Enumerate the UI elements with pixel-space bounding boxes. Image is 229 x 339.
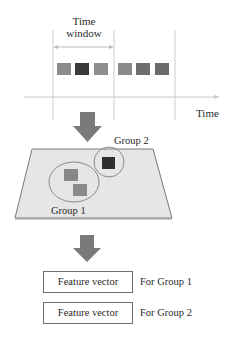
feature-vector-box-2: Feature vector <box>43 302 133 324</box>
time-window-span-arrow <box>53 45 114 49</box>
group1-square-1 <box>64 169 78 181</box>
for-group1-label: For Group 1 <box>140 276 192 288</box>
time-window-label-line1: Time <box>64 15 104 27</box>
event-square-2 <box>75 63 89 75</box>
feature-vector-box-1: Feature vector <box>43 271 133 293</box>
group1-label: Group 1 <box>51 205 86 217</box>
event-square-1 <box>57 63 71 75</box>
event-square-3 <box>94 63 108 75</box>
event-square-6 <box>155 63 169 75</box>
down-arrow-icon <box>73 235 101 262</box>
group1-square-2 <box>73 184 87 196</box>
group2-label: Group 2 <box>114 135 149 147</box>
event-square-5 <box>136 63 150 75</box>
time-window-label: Time window <box>64 15 104 39</box>
time-axis-label: Time <box>196 107 219 119</box>
group2-square <box>102 157 115 169</box>
down-arrow-icon <box>73 112 102 142</box>
event-square-4 <box>118 63 132 75</box>
for-group2-label: For Group 2 <box>140 307 192 319</box>
feature-plane <box>15 149 172 218</box>
time-window-label-line2: window <box>64 27 104 39</box>
